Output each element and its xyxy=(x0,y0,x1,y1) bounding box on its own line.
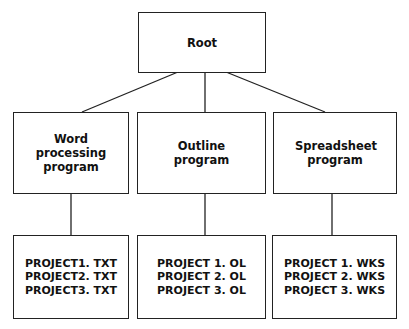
program-node-outline: Outline program xyxy=(137,112,266,194)
file-item: PROJECT 3. OL xyxy=(157,284,246,298)
file-item: PROJECT1. TXT xyxy=(25,257,117,271)
files-node-word-processing: PROJECT1. TXT PROJECT2. TXT PROJECT3. TX… xyxy=(13,235,129,319)
file-item: PROJECT 2. WKS xyxy=(284,270,385,284)
program-node-spreadsheet: Spreadsheet program xyxy=(273,112,397,194)
file-item: PROJECT 2. OL xyxy=(157,270,246,284)
program-node-word-processing: Word processing program xyxy=(13,112,129,194)
file-item: PROJECT2. TXT xyxy=(25,270,117,284)
program-label: Outline program xyxy=(167,139,237,167)
root-node: Root xyxy=(138,12,266,73)
files-node-outline: PROJECT 1. OL PROJECT 2. OL PROJECT 3. O… xyxy=(137,235,266,319)
program-label: Word processing program xyxy=(24,132,119,174)
file-item: PROJECT 1. WKS xyxy=(284,257,385,271)
file-item: PROJECT3. TXT xyxy=(25,284,117,298)
file-item: PROJECT 3. WKS xyxy=(284,284,385,298)
file-item: PROJECT 1. OL xyxy=(157,257,246,271)
files-node-spreadsheet: PROJECT 1. WKS PROJECT 2. WKS PROJECT 3.… xyxy=(272,235,397,319)
root-label: Root xyxy=(187,36,217,50)
program-label: Spreadsheet program xyxy=(295,139,375,167)
